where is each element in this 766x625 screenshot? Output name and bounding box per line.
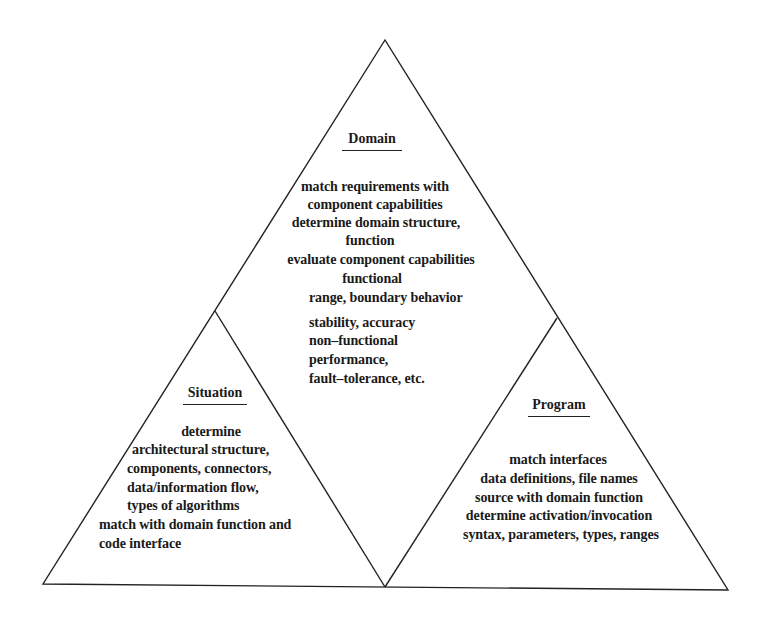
situation-line: components, connectors, xyxy=(127,460,271,478)
domain-line: stability, accuracy xyxy=(309,314,415,332)
program-line: syntax, parameters, types, ranges xyxy=(463,526,659,544)
domain-line: component capabilities xyxy=(307,196,442,214)
situation-line: data/information flow, xyxy=(127,479,259,497)
situation-line: architectural structure, xyxy=(132,441,269,459)
program-line: source with domain function xyxy=(475,489,643,507)
domain-line: evaluate component capabilities xyxy=(287,251,474,269)
domain-line: range, boundary behavior xyxy=(309,289,463,307)
situation-line: match with domain function and xyxy=(99,516,291,534)
domain-line: functional xyxy=(342,270,402,288)
situation-heading: Situation xyxy=(183,385,247,405)
domain-line: match requirements with xyxy=(301,178,449,196)
domain-heading: Domain xyxy=(342,131,402,151)
domain-line: non–functional xyxy=(309,332,398,350)
domain-line: function xyxy=(346,232,395,250)
situation-line: types of algorithms xyxy=(127,497,239,515)
program-line: determine activation/invocation xyxy=(466,507,652,525)
domain-line: determine domain structure, xyxy=(292,214,461,232)
domain-line: fault–tolerance, etc. xyxy=(309,370,425,388)
domain-line: performance, xyxy=(309,351,388,369)
program-line: match interfaces xyxy=(509,451,607,469)
situation-line: determine xyxy=(181,423,241,441)
program-heading: Program xyxy=(528,397,590,417)
program-line: data definitions, file names xyxy=(480,470,637,488)
situation-line: code interface xyxy=(99,535,181,553)
